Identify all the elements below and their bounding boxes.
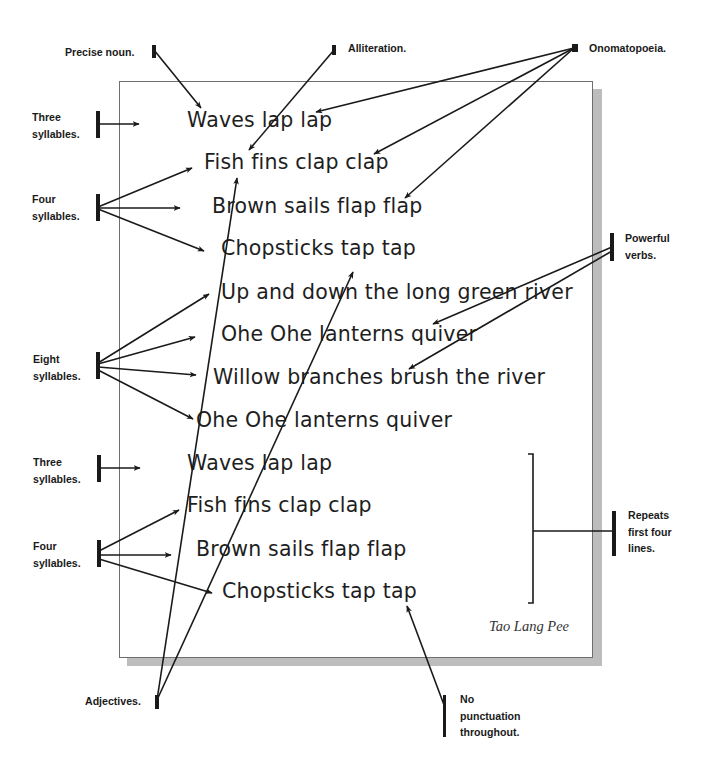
poem-line-6: Ohe Ohe lanterns quiver — [221, 322, 477, 346]
poem-line-10: Fish fins clap clap — [187, 493, 372, 517]
poem-line-11: Brown sails flap flap — [196, 537, 406, 561]
label-four-syllables-top: Four syllables. — [32, 191, 80, 224]
poem-line-12: Chopsticks tap tap — [222, 579, 417, 603]
label-three-syllables-bottom: Three syllables. — [33, 454, 81, 487]
label-adjectives: Adjectives. — [85, 693, 141, 710]
poem-line-3: Brown sails flap flap — [212, 194, 422, 218]
poem-line-7: Willow branches brush the river — [213, 365, 545, 389]
poem-line-2: Fish fins clap clap — [204, 150, 389, 174]
label-three-syllables-top: Three syllables. — [32, 109, 80, 142]
poem-line-8: Ohe Ohe lanterns quiver — [196, 408, 452, 432]
label-four-syllables-bottom: Four syllables. — [33, 538, 81, 571]
poem-line-5: Up and down the long green river — [221, 280, 573, 304]
label-precise-noun: Precise noun. — [65, 44, 134, 61]
poem-line-9: Waves lap lap — [187, 451, 332, 475]
label-repeats-first-four-lines: Repeats first four lines. — [628, 507, 671, 557]
label-eight-syllables: Eight syllables. — [33, 351, 81, 384]
label-onomatopoeia: Onomatopoeia. — [589, 40, 666, 57]
poem-line-4: Chopsticks tap tap — [221, 236, 416, 260]
poem-author: Tao Lang Pee — [489, 618, 569, 635]
label-no-punctuation: No punctuation throughout. — [460, 691, 521, 741]
label-powerful-verbs: Powerful verbs. — [625, 230, 670, 263]
label-alliteration: Alliteration. — [348, 40, 406, 57]
poem-line-1: Waves lap lap — [187, 108, 332, 132]
